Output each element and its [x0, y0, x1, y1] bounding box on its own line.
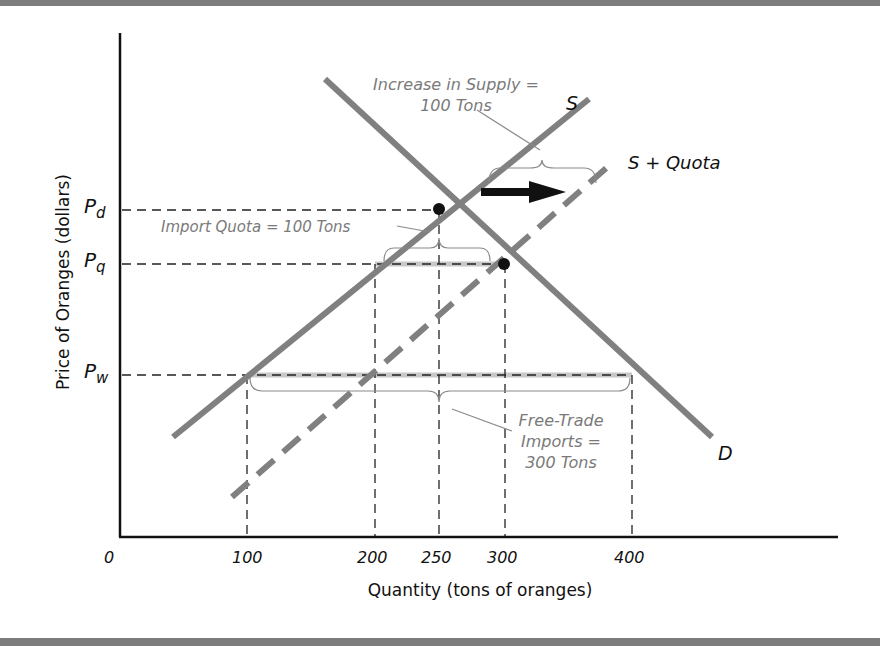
demand-curve-label: D	[718, 442, 733, 464]
free-trade-imports-annotation: Free-Trade Imports = 300 Tons	[516, 410, 606, 473]
x-tick-300: 300	[487, 548, 518, 567]
y-tick-pd: Pd	[84, 194, 106, 222]
x-tick-250: 250	[421, 548, 452, 567]
increase-supply-annotation: Increase in Supply = 100 Tons	[346, 74, 566, 116]
x-tick-200: 200	[357, 548, 388, 567]
x-tick-100: 100	[232, 548, 263, 567]
import-quota-annotation: Import Quota = 100 Tons	[161, 218, 350, 236]
supply-curve-label: S	[566, 92, 578, 114]
y-tick-pw: Pw	[84, 359, 108, 387]
x-tick-0: 0	[104, 548, 114, 567]
supply-quota-curve-label: S + Quota	[628, 152, 721, 173]
x-tick-400: 400	[614, 548, 645, 567]
y-tick-pq: Pq	[84, 248, 106, 276]
x-axis-label: Quantity (tons of oranges)	[330, 580, 630, 600]
y-axis-label: Price of Oranges (dollars)	[53, 157, 73, 407]
